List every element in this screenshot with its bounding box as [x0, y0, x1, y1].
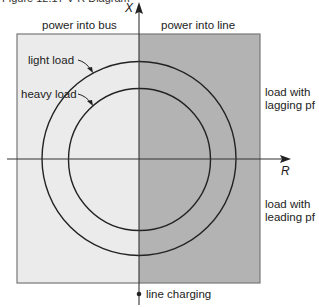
- heavy-load-label: heavy load: [21, 88, 77, 101]
- lagging-pf-label-line2: lagging pf: [265, 99, 315, 112]
- line-charging-label: line charging: [146, 288, 211, 301]
- vr-diagram: [0, 0, 319, 307]
- line-charging-dot: [137, 292, 142, 297]
- x-axis-label: R: [281, 164, 290, 178]
- power-into-bus-label: power into bus: [42, 19, 117, 32]
- light-load-label: light load: [28, 54, 74, 67]
- leading-pf-label-line2: leading pf: [265, 211, 315, 224]
- y-axis-label: X: [125, 1, 133, 15]
- lagging-pf-label-line1: load with: [265, 86, 310, 99]
- leading-pf-label-line1: load with: [265, 198, 310, 211]
- power-into-line-label: power into line: [161, 19, 235, 32]
